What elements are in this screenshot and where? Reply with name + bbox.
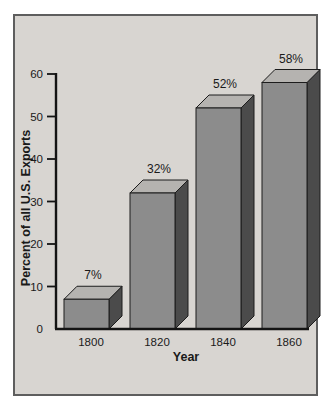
bar-side-face bbox=[307, 70, 320, 330]
bar-front-face bbox=[130, 193, 175, 329]
y-tick-label: 50 bbox=[30, 111, 43, 123]
bar-chart: 7%180032%182052%184058%18600102030405060… bbox=[0, 0, 334, 405]
bar-side-face bbox=[175, 180, 188, 329]
page: 7%180032%182052%184058%18600102030405060… bbox=[0, 0, 334, 405]
value-label: 52% bbox=[213, 77, 237, 91]
y-axis-title: Percent of all U.S. Exports bbox=[19, 130, 33, 286]
value-label: 7% bbox=[84, 268, 102, 282]
value-label: 32% bbox=[147, 162, 171, 176]
bar-front-face bbox=[64, 299, 109, 329]
x-tick-label: 1860 bbox=[276, 336, 302, 348]
y-tick-label: 0 bbox=[37, 323, 43, 335]
bar-1840 bbox=[196, 95, 254, 329]
x-tick-label: 1800 bbox=[78, 336, 104, 348]
y-tick-label: 60 bbox=[30, 68, 43, 80]
bar-1820 bbox=[130, 180, 188, 329]
x-tick-label: 1840 bbox=[210, 336, 236, 348]
x-axis-title: Year bbox=[173, 350, 200, 364]
bar-1860 bbox=[262, 70, 320, 330]
bar-front-face bbox=[196, 108, 241, 329]
x-tick-label: 1820 bbox=[144, 336, 170, 348]
bar-1800 bbox=[64, 286, 122, 329]
bar-side-face bbox=[241, 95, 254, 329]
value-label: 58% bbox=[279, 52, 303, 66]
bar-front-face bbox=[262, 83, 307, 330]
